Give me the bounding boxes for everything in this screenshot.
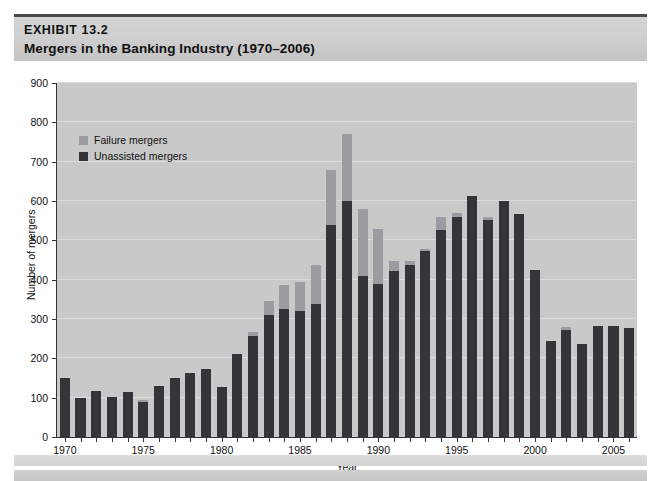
bar-segment-failure: [483, 217, 493, 219]
bar-segment-unassisted: [467, 196, 477, 437]
bar-segment-unassisted: [561, 330, 571, 437]
legend-label: Failure mergers: [94, 134, 168, 146]
bar-group[interactable]: [530, 83, 540, 437]
bar-group[interactable]: [264, 83, 274, 437]
bar-group[interactable]: [217, 83, 227, 437]
x-axis-line: [56, 437, 637, 438]
bar-group[interactable]: [514, 83, 524, 437]
bar-group[interactable]: [608, 83, 618, 437]
footer-band-upper: [14, 455, 647, 466]
x-axis-minor-tick: [441, 438, 442, 442]
x-axis-minor-tick: [237, 438, 238, 442]
bar-group[interactable]: [279, 83, 289, 437]
bar-group[interactable]: [436, 83, 446, 437]
bar-segment-unassisted: [311, 304, 321, 437]
bar-group[interactable]: [561, 83, 571, 437]
bar-group[interactable]: [373, 83, 383, 437]
bar-group[interactable]: [483, 83, 493, 437]
bar-group[interactable]: [467, 83, 477, 437]
bar-group[interactable]: [405, 83, 415, 437]
x-axis-minor-tick: [629, 438, 630, 442]
bar-segment-unassisted: [60, 378, 70, 437]
bar-group[interactable]: [624, 83, 634, 437]
y-axis-tick-label: 600: [14, 195, 48, 207]
x-axis-minor-tick: [425, 438, 426, 442]
bar-group[interactable]: [201, 83, 211, 437]
legend-swatch-icon: [79, 136, 88, 145]
x-axis-minor-tick: [300, 438, 301, 442]
footer-band-lower: [14, 470, 647, 481]
bar-segment-failure: [436, 217, 446, 230]
bar-segment-unassisted: [546, 341, 556, 437]
x-axis-minor-tick: [128, 438, 129, 442]
y-axis-title: Number of mergers: [25, 210, 37, 300]
y-axis-tick-label: 0: [14, 431, 48, 443]
bar-group[interactable]: [342, 83, 352, 437]
bar-group[interactable]: [248, 83, 258, 437]
bar-segment-failure: [405, 261, 415, 265]
bar-group[interactable]: [326, 83, 336, 437]
x-axis-minor-tick: [81, 438, 82, 442]
bar-segment-unassisted: [326, 225, 336, 437]
bar-segment-failure: [420, 249, 430, 251]
bar-group[interactable]: [295, 83, 305, 437]
bar-group[interactable]: [452, 83, 462, 437]
bar-group[interactable]: [420, 83, 430, 437]
bar-segment-failure: [311, 265, 321, 304]
bar-group[interactable]: [311, 83, 321, 437]
chart-legend: Failure mergersUnassisted mergers: [79, 134, 187, 166]
legend-item-failure-mergers[interactable]: Failure mergers: [79, 134, 187, 146]
bar-segment-unassisted: [75, 398, 85, 437]
x-axis-minor-tick: [159, 438, 160, 442]
bar-segment-unassisted: [185, 373, 195, 437]
bar-segment-unassisted: [138, 402, 148, 437]
x-axis-minor-tick: [472, 438, 473, 442]
bar-segment-failure: [295, 282, 305, 311]
bar-segment-unassisted: [91, 391, 101, 437]
plot-area: Failure mergersUnassisted mergers: [57, 83, 637, 437]
y-axis-tick-label: 500: [14, 234, 48, 246]
bar-segment-unassisted: [483, 220, 493, 438]
bar-segment-unassisted: [342, 201, 352, 437]
bar-group[interactable]: [358, 83, 368, 437]
x-axis-minor-tick: [65, 438, 66, 442]
bar-segment-unassisted: [405, 265, 415, 437]
x-axis-minor-tick: [535, 438, 536, 442]
bar-segment-unassisted: [452, 217, 462, 437]
bar-segment-unassisted: [624, 328, 634, 437]
y-axis-tick-label: 900: [14, 77, 48, 89]
bar-group[interactable]: [577, 83, 587, 437]
bar-segment-failure: [561, 327, 571, 330]
bar-segment-unassisted: [436, 230, 446, 437]
bar-segment-unassisted: [232, 354, 242, 437]
legend-item-unassisted-mergers[interactable]: Unassisted mergers: [79, 150, 187, 162]
chart-figure: Number of mergers Failure mergersUnassis…: [14, 66, 647, 441]
x-axis-minor-tick: [378, 438, 379, 442]
bar-segment-unassisted: [295, 311, 305, 437]
x-axis-minor-tick: [96, 438, 97, 442]
bar-segment-unassisted: [248, 336, 258, 437]
bar-segment-unassisted: [279, 309, 289, 437]
bar-segment-unassisted: [389, 271, 399, 437]
bar-group[interactable]: [499, 83, 509, 437]
bar-segment-unassisted: [420, 251, 430, 437]
x-axis-minor-tick: [347, 438, 348, 442]
bar-segment-unassisted: [107, 397, 117, 438]
x-axis-minor-tick: [190, 438, 191, 442]
bar-group[interactable]: [60, 83, 70, 437]
bar-segment-unassisted: [217, 387, 227, 437]
bar-segment-unassisted: [170, 378, 180, 437]
y-axis-tick-label: 800: [14, 116, 48, 128]
x-axis-minor-tick: [331, 438, 332, 442]
bar-group[interactable]: [593, 83, 603, 437]
bar-segment-unassisted: [358, 276, 368, 437]
bar-segment-unassisted: [514, 214, 524, 437]
bar-segment-failure: [342, 134, 352, 201]
bar-segment-unassisted: [123, 392, 133, 437]
bar-group[interactable]: [232, 83, 242, 437]
bar-group[interactable]: [546, 83, 556, 437]
bar-group[interactable]: [389, 83, 399, 437]
y-axis-tick-label: 100: [14, 392, 48, 404]
bar-segment-unassisted: [201, 369, 211, 437]
bar-segment-failure: [279, 285, 289, 309]
